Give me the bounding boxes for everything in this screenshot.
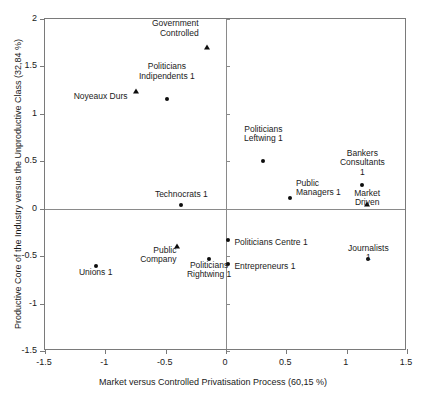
data-point-label: Politicians Indipendents 1	[139, 62, 195, 81]
data-point-label: Government Controlled	[152, 19, 199, 38]
data-point-label: Politicians Rightwing 1	[187, 261, 231, 280]
x-tick-mark	[45, 349, 46, 354]
y-tick-label: 0.5	[24, 155, 37, 165]
y-tick-label: 0	[32, 203, 37, 213]
data-point-marker-circle	[165, 97, 169, 101]
x-origin-axis-line	[45, 209, 405, 210]
y-tick-mark	[40, 19, 45, 20]
x-tick-mark	[407, 349, 408, 354]
x-tick-mark	[347, 349, 348, 354]
y-tick-mark-origin	[226, 114, 230, 115]
y-tick-mark-origin	[226, 19, 230, 20]
y-tick-label: 1.5	[24, 60, 37, 70]
data-point-label: Bankers Consultants 1	[340, 149, 385, 178]
x-tick-label: -1	[100, 357, 108, 367]
data-point-marker-circle	[226, 238, 230, 242]
data-point-label: Entrepreneurs 1	[234, 262, 295, 272]
plot-area: Government ControlledPoliticians Indipen…	[44, 18, 406, 350]
y-tick-label: 2	[32, 13, 37, 23]
data-point-label: Noyeaux Durs	[74, 92, 128, 102]
data-point-marker-circle	[261, 159, 265, 163]
y-axis-title: Productive Core of the Industry versus t…	[13, 18, 26, 350]
data-point-label: Journalists 1	[348, 244, 389, 263]
scatter-plot-figure: Government ControlledPoliticians Indipen…	[0, 0, 426, 400]
data-point-marker-triangle	[133, 89, 139, 94]
y-tick-mark	[40, 66, 45, 67]
y-tick-mark-origin	[226, 66, 230, 67]
y-tick-mark-origin	[226, 209, 230, 210]
x-tick-label: 1	[343, 357, 348, 367]
y-tick-mark	[40, 304, 45, 305]
x-tick-mark	[105, 349, 106, 354]
data-point-label: Public Managers 1	[296, 179, 341, 198]
data-point-label: Politicians Centre 1	[234, 238, 307, 248]
x-tick-label: -0.5	[157, 357, 173, 367]
y-origin-axis-line	[226, 19, 227, 349]
y-tick-mark-origin	[226, 256, 230, 257]
data-point-label: Public Company	[140, 246, 176, 265]
x-tick-label: 0	[222, 357, 227, 367]
data-point-label: Unions 1	[79, 268, 113, 278]
data-point-marker-triangle	[204, 44, 210, 49]
data-point-marker-circle	[360, 183, 364, 187]
data-point-marker-circle	[179, 203, 183, 207]
y-tick-mark	[40, 161, 45, 162]
data-point-label: Technocrats 1	[155, 190, 208, 200]
x-tick-label: 0.5	[279, 357, 292, 367]
data-point-marker-circle	[288, 196, 292, 200]
data-point-label: Politicians Leftwing 1	[244, 125, 283, 144]
x-tick-label: 1.5	[400, 357, 413, 367]
x-tick-label: -1.5	[36, 357, 52, 367]
x-tick-mark	[226, 349, 227, 354]
x-tick-mark	[166, 349, 167, 354]
y-tick-mark-origin	[226, 161, 230, 162]
y-tick-mark	[40, 114, 45, 115]
x-axis-title: Market versus Controlled Privatisation P…	[0, 377, 426, 387]
y-tick-label: 1	[32, 108, 37, 118]
y-tick-mark	[40, 256, 45, 257]
y-tick-mark-origin	[226, 304, 230, 305]
y-tick-label: -1	[29, 298, 37, 308]
y-tick-mark	[40, 209, 45, 210]
data-point-label: Market Driven	[348, 189, 386, 208]
x-tick-mark	[286, 349, 287, 354]
